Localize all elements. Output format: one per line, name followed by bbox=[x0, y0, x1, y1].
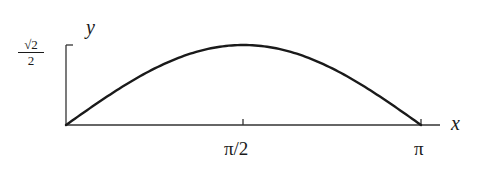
y-tick-numerator: √2 bbox=[18, 38, 44, 53]
sine-curve bbox=[66, 45, 421, 125]
y-tick-denominator: 2 bbox=[18, 53, 44, 67]
y-tick-label: √2 2 bbox=[18, 38, 44, 67]
x-tick-label-half-pi: π/2 bbox=[224, 138, 248, 160]
x-axis-label: x bbox=[451, 112, 460, 135]
x-tick-label-pi: π bbox=[414, 138, 424, 160]
y-axis-label: y bbox=[86, 16, 95, 39]
